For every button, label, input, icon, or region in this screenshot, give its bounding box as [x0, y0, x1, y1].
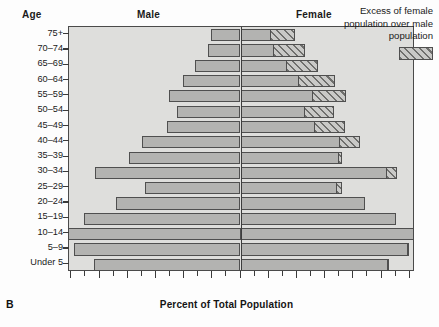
x-axis-ticks — [68, 271, 414, 279]
x-axis-labels — [0, 279, 439, 293]
bar-male-5-9 — [74, 243, 240, 255]
y-tick — [63, 94, 69, 95]
bar-male-30-34 — [95, 167, 240, 179]
bar-female-5-9 — [241, 243, 409, 255]
x-tick — [113, 271, 114, 276]
bar-male-10-14 — [68, 228, 241, 240]
legend-line-1: Excess of female — [283, 5, 433, 18]
bar-excess-female-5-9 — [407, 243, 409, 255]
bar-male-75- — [211, 29, 241, 41]
excess-female-hatch-swatch — [399, 47, 433, 60]
bar-excess-female-45-49 — [314, 121, 345, 133]
x-tick — [254, 271, 255, 276]
x-tick — [268, 271, 269, 278]
bar-male-35-39 — [129, 152, 240, 164]
x-tick — [395, 271, 396, 276]
y-label-65-69: 65–69 — [37, 58, 63, 68]
male-side-header: Male — [137, 9, 160, 20]
x-tick — [183, 271, 184, 278]
bar-female-under-5 — [241, 259, 389, 271]
bar-excess-female-35-39 — [338, 152, 342, 164]
bar-female-20-24 — [241, 197, 365, 209]
bar-excess-female-50-54 — [304, 106, 334, 118]
panel-letter-label: B — [6, 298, 14, 310]
y-tick — [63, 79, 69, 80]
y-label-5-9: 5–9 — [48, 242, 63, 252]
y-label-75-: 75+ — [47, 28, 63, 38]
y-tick — [63, 64, 69, 65]
x-tick — [197, 271, 198, 276]
bar-male-45-49 — [167, 121, 240, 133]
bar-excess-female-55-59 — [312, 90, 346, 102]
y-tick — [63, 217, 69, 218]
y-label-70-74: 70–74 — [37, 43, 63, 53]
bar-male-60-64 — [183, 75, 241, 87]
bar-male-25-29 — [145, 182, 241, 194]
bar-male-20-24 — [116, 197, 240, 209]
x-tick — [324, 271, 325, 278]
x-tick — [99, 271, 100, 278]
legend-line-3: population — [283, 30, 433, 43]
y-label-30-34: 30–34 — [37, 165, 63, 175]
bar-excess-female-25-29 — [336, 182, 342, 194]
x-tick — [366, 271, 367, 276]
y-tick — [63, 140, 69, 141]
y-tick — [63, 171, 69, 172]
figure-panel: Age Male Female Excess of female populat… — [0, 0, 439, 327]
x-tick — [225, 271, 226, 276]
legend-line-2: population over male — [283, 18, 433, 31]
x-tick — [352, 271, 353, 278]
x-tick — [155, 271, 156, 278]
y-label-10-14: 10–14 — [37, 227, 63, 237]
y-tick — [63, 247, 69, 248]
bar-female-30-34 — [241, 167, 398, 179]
x-tick — [296, 271, 297, 278]
y-label-60-64: 60–64 — [37, 74, 63, 84]
y-label-under-5: Under 5 — [30, 257, 63, 267]
y-label-25-29: 25–29 — [37, 181, 63, 191]
y-label-55-59: 55–59 — [37, 89, 63, 99]
x-tick — [338, 271, 339, 276]
x-tick — [84, 271, 85, 276]
x-axis-title: Percent of Total Population — [0, 299, 439, 310]
bar-excess-female-under-5 — [387, 259, 389, 271]
x-tick — [169, 271, 170, 276]
bar-female-15-19 — [241, 213, 396, 225]
y-tick — [63, 186, 69, 187]
x-tick — [240, 271, 241, 278]
y-label-50-54: 50–54 — [37, 104, 63, 114]
y-tick — [63, 232, 69, 233]
x-tick — [381, 271, 382, 278]
y-label-15-19: 15–19 — [37, 211, 63, 221]
bar-male-50-54 — [177, 106, 240, 118]
x-tick — [211, 271, 212, 278]
x-tick — [310, 271, 311, 276]
y-label-35-39: 35–39 — [37, 150, 63, 160]
chart-legend: Excess of female population over male po… — [283, 5, 433, 64]
y-tick — [63, 125, 69, 126]
x-tick — [127, 271, 128, 278]
y-label-45-49: 45–49 — [37, 120, 63, 130]
bar-excess-female-30-34 — [386, 167, 397, 179]
zero-axis-line — [241, 27, 242, 270]
age-column-header: Age — [22, 9, 42, 20]
bar-female-25-29 — [241, 182, 343, 194]
bar-male-55-59 — [169, 90, 241, 102]
x-tick — [409, 271, 410, 278]
bar-excess-female-60-64 — [298, 75, 335, 87]
bar-excess-female-40-44 — [339, 136, 360, 148]
bar-male-65-69 — [195, 60, 240, 72]
y-tick — [63, 156, 69, 157]
y-tick — [63, 201, 69, 202]
y-tick — [63, 48, 69, 49]
bar-male-40-44 — [142, 136, 241, 148]
y-tick — [63, 33, 69, 34]
bar-male-under-5 — [94, 259, 241, 271]
x-tick — [70, 271, 71, 278]
x-tick — [141, 271, 142, 276]
y-tick — [63, 110, 69, 111]
x-tick — [282, 271, 283, 276]
bar-female-10-14 — [241, 228, 415, 240]
y-tick — [63, 263, 69, 264]
y-label-40-44: 40–44 — [37, 135, 63, 145]
